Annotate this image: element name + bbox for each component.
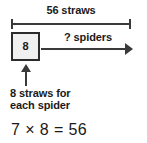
span-tick-right-icon xyxy=(129,19,131,29)
right-arrow-head-icon xyxy=(125,43,133,55)
span-tick-left-icon xyxy=(11,19,13,29)
right-arrow-shaft xyxy=(41,48,127,50)
unit-value-text: 8 xyxy=(13,34,38,59)
callout-line-2: each spider xyxy=(10,99,71,111)
total-span-line xyxy=(11,23,131,25)
bar-model-diagram: 56 straws 8 ? spiders 8 straws for each … xyxy=(0,0,147,143)
up-arrow-shaft xyxy=(25,71,27,86)
callout-line-1: 8 straws for xyxy=(10,87,71,99)
unit-value-box: 8 xyxy=(11,32,40,61)
equation-text: 7 × 8 = 56 xyxy=(11,120,87,139)
total-length-label: 56 straws xyxy=(0,4,142,17)
unknown-quantity-label: ? spiders xyxy=(48,31,128,44)
callout-annotation: 8 straws for each spider xyxy=(10,87,71,111)
